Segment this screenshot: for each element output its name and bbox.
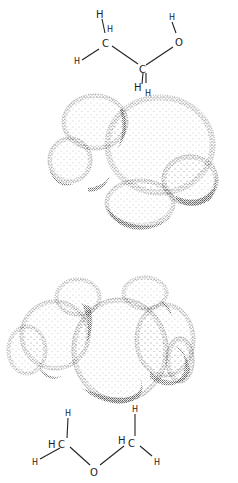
bond-h-cleft bbox=[67, 418, 68, 438]
bond-cright-h-lower bbox=[140, 446, 152, 456]
atom-h: H bbox=[118, 435, 126, 446]
bond-o-cright bbox=[100, 446, 124, 465]
atom-o: O bbox=[175, 37, 183, 48]
atom-h: H bbox=[107, 25, 113, 34]
ethanol-space-filling-model bbox=[48, 94, 218, 230]
atom-c: C bbox=[102, 38, 109, 49]
atom-h: H bbox=[169, 13, 175, 22]
atom-h: H bbox=[32, 458, 38, 467]
bond-c2-o bbox=[146, 47, 173, 65]
atom-h: H bbox=[74, 57, 80, 66]
ethanol-structural-formula: H H C H C H H O H bbox=[74, 9, 183, 98]
bond-cleft-o bbox=[70, 447, 90, 465]
atom-h: H bbox=[96, 9, 104, 20]
atom-o: O bbox=[90, 467, 98, 478]
atom-h: H bbox=[132, 405, 138, 414]
dimethyl-ether-structural-formula: H H C H O H H C H bbox=[32, 405, 160, 478]
bond-h1-c1 bbox=[102, 19, 105, 33]
atom-c: C bbox=[58, 439, 65, 450]
bond-c1-c2 bbox=[112, 46, 138, 64]
atom-c: C bbox=[139, 64, 146, 75]
atom-h: H bbox=[65, 409, 71, 418]
atom-c: C bbox=[128, 438, 135, 449]
dimethyl-ether-space-filling-model bbox=[7, 276, 195, 404]
atom-h: H bbox=[154, 458, 160, 467]
atom-h: H bbox=[134, 82, 142, 93]
bond-h3-c1 bbox=[82, 49, 99, 60]
atom-h: H bbox=[48, 439, 56, 450]
bond-o-h bbox=[172, 22, 176, 33]
molecule-figure: H H C H C H H O H bbox=[0, 0, 238, 483]
